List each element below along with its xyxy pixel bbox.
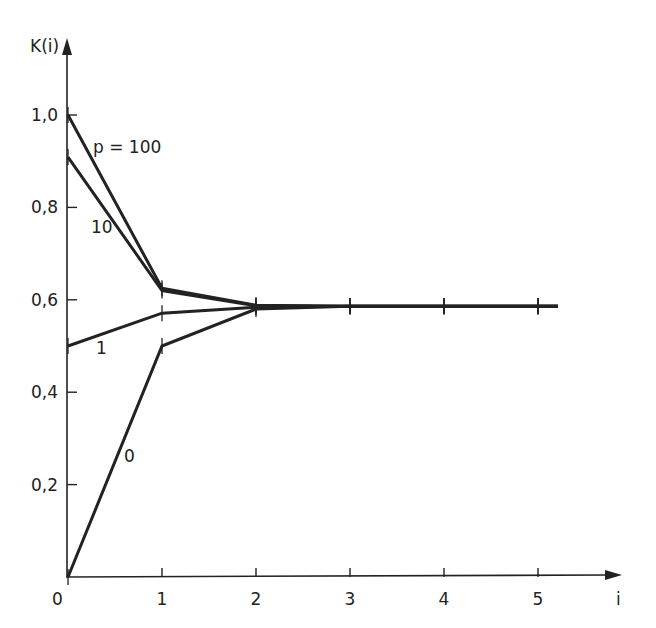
x-tick-label: 4 (439, 589, 450, 609)
chart: 0,20,40,60,81,012345 p = 1001010 K(i) i … (0, 0, 656, 628)
series (68, 107, 558, 585)
y-tick-label: 0,6 (31, 290, 58, 310)
y-axis-label: K(i) (30, 36, 59, 56)
x-tick-label: 5 (533, 589, 544, 609)
series-line (68, 306, 558, 346)
y-tick-label: 0,2 (31, 475, 58, 495)
series-label: 10 (91, 217, 113, 237)
x-tick-label: 3 (345, 589, 356, 609)
y-axis-arrow-icon (62, 38, 72, 55)
series-line (68, 306, 558, 577)
axes (67, 48, 607, 578)
series-label: p = 100 (93, 137, 161, 157)
x-axis-label: i (616, 589, 621, 609)
series-labels: p = 1001010 (91, 137, 161, 466)
series-line (68, 157, 558, 306)
tick-labels: 0,20,40,60,81,012345 (31, 105, 543, 609)
x-axis (67, 575, 607, 577)
ticks (67, 115, 538, 577)
x-tick-label: 2 (251, 589, 262, 609)
origin-label: 0 (52, 589, 63, 609)
series-label: 1 (96, 338, 107, 358)
series-label: 0 (124, 446, 135, 466)
y-tick-label: 1,0 (31, 105, 58, 125)
x-tick-label: 1 (157, 589, 168, 609)
y-tick-label: 0,4 (31, 382, 58, 402)
x-axis-arrow-icon (605, 570, 622, 580)
y-tick-label: 0,8 (31, 197, 58, 217)
